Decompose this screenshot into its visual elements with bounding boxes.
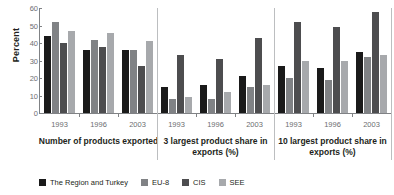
bar: [161, 87, 168, 113]
bar: [239, 76, 246, 113]
bar: [107, 33, 114, 114]
y-tick-mark: [39, 43, 42, 44]
section-separator: [157, 8, 158, 160]
bar: [185, 97, 192, 113]
bar: [294, 22, 301, 113]
bar: [177, 55, 184, 113]
bar-group: [40, 8, 79, 113]
y-tick-label: 30: [16, 56, 38, 65]
bar-group: [79, 8, 118, 113]
bar: [130, 50, 137, 113]
section-title: Number of products exported: [39, 136, 159, 147]
y-tick-mark: [39, 78, 42, 79]
bar-group: [196, 8, 235, 113]
section-separator: [274, 8, 275, 160]
y-tick-mark: [39, 26, 42, 27]
y-tick-mark: [39, 61, 42, 62]
bar: [302, 61, 309, 114]
legend-label: The Region and Turkey: [50, 178, 128, 187]
y-tick-mark: [39, 113, 42, 114]
chart-legend: The Region and TurkeyEU-8CISSEE: [39, 178, 245, 187]
x-tick-label-year: 1993: [285, 120, 302, 129]
bar: [255, 38, 262, 113]
legend-swatch-icon: [39, 179, 46, 186]
bar: [83, 50, 90, 113]
x-tick-label-year: 1993: [168, 120, 185, 129]
bar: [216, 59, 223, 113]
plot-area: [40, 8, 391, 113]
section-title: 10 largest product share in exports (%): [273, 136, 393, 158]
x-tick-label-year: 1996: [90, 120, 107, 129]
bar: [200, 85, 207, 113]
bar: [146, 41, 153, 113]
grouped-bar-chart: Percent 0102030405060 199319962003Number…: [0, 0, 394, 195]
chart-section: [157, 8, 274, 113]
bar: [169, 99, 176, 113]
legend-label: SEE: [230, 178, 245, 187]
legend-item: EU-8: [141, 178, 169, 187]
x-tick-mark: [235, 113, 236, 117]
x-tick-label-year: 2003: [246, 120, 263, 129]
legend-item: SEE: [219, 178, 245, 187]
bar: [286, 78, 293, 113]
legend-swatch-icon: [182, 179, 189, 186]
legend-item: CIS: [182, 178, 206, 187]
x-tick-mark: [118, 113, 119, 117]
y-tick-label: 40: [16, 39, 38, 48]
bar: [224, 92, 231, 113]
bar: [372, 12, 379, 114]
bar: [138, 66, 145, 113]
bar-group: [313, 8, 352, 113]
bar: [341, 61, 348, 114]
bar: [263, 85, 270, 113]
y-tick-label: 20: [16, 74, 38, 83]
y-tick-mark: [39, 96, 42, 97]
x-tick-mark: [196, 113, 197, 117]
legend-swatch-icon: [141, 179, 148, 186]
bar: [333, 27, 340, 113]
chart-section: [40, 8, 157, 113]
bar: [60, 43, 67, 113]
section-title: 3 largest product share in exports (%): [156, 136, 276, 158]
bar: [208, 99, 215, 113]
y-tick-label: 10: [16, 91, 38, 100]
bar: [364, 57, 371, 113]
x-tick-mark: [352, 113, 353, 117]
bar: [380, 55, 387, 113]
y-tick-label: 0: [16, 109, 38, 118]
bar: [247, 87, 254, 113]
legend-label: CIS: [193, 178, 206, 187]
bar: [122, 50, 129, 113]
x-tick-label-year: 2003: [363, 120, 380, 129]
bar-group: [235, 8, 274, 113]
y-tick-mark: [39, 8, 42, 9]
x-tick-mark: [313, 113, 314, 117]
bar: [44, 36, 51, 113]
y-tick-label: 60: [16, 4, 38, 13]
bar-group: [274, 8, 313, 113]
x-axis-line: [39, 113, 391, 114]
legend-swatch-icon: [219, 179, 226, 186]
bar: [68, 31, 75, 113]
bar-group: [118, 8, 157, 113]
bar: [325, 80, 332, 113]
bar: [99, 47, 106, 114]
x-tick-label-year: 1993: [51, 120, 68, 129]
bar: [52, 22, 59, 113]
section-separator: [391, 8, 392, 160]
bar: [91, 40, 98, 114]
bar: [317, 68, 324, 114]
bar: [356, 52, 363, 113]
bar-group: [157, 8, 196, 113]
y-tick-label: 50: [16, 21, 38, 30]
legend-label: EU-8: [152, 178, 169, 187]
x-tick-mark: [79, 113, 80, 117]
x-tick-label-year: 1996: [324, 120, 341, 129]
y-axis-tick-labels: 0102030405060: [14, 0, 38, 116]
x-tick-label-year: 2003: [129, 120, 146, 129]
x-tick-label-year: 1996: [207, 120, 224, 129]
legend-item: The Region and Turkey: [39, 178, 128, 187]
bar-group: [352, 8, 391, 113]
chart-section: [274, 8, 391, 113]
bar: [278, 66, 285, 113]
